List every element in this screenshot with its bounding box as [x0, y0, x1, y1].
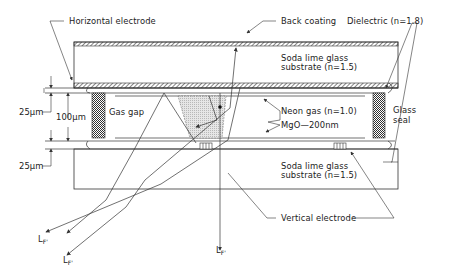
label-top-substrate-line2: substrate (n=1.5)	[281, 63, 357, 71]
glass-seal-right	[373, 93, 385, 138]
emission-point	[218, 105, 222, 109]
label-lf-center-left: LF'	[63, 256, 73, 264]
label-mgo: MgO—200nm	[281, 121, 339, 129]
dimension-100um: 100μm	[56, 113, 86, 121]
dielectric-layer	[74, 83, 398, 88]
back-coating-layer	[74, 42, 398, 46]
label-lf-center: LF'	[216, 246, 226, 254]
label-bottom-substrate-line2: substrate (n=1.5)	[281, 171, 357, 179]
bottom-glass-substrate	[74, 149, 398, 189]
label-dielectric: Dielectric (n=1.8)	[347, 17, 423, 25]
dimension-25um-bottom: 25μm	[19, 162, 44, 170]
label-gas-gap: Gas gap	[109, 108, 144, 116]
label-back-coating: Back coating	[281, 17, 336, 25]
label-glass-seal-line1: Glass	[393, 106, 416, 114]
label-horizontal-electrode: Horizontal electrode	[69, 17, 156, 25]
label-neon-gas: Neon gas (n=1.0)	[281, 107, 357, 115]
plasma-display-cell-diagram	[0, 0, 459, 277]
label-lf-left: LF'	[38, 235, 48, 243]
dimension-25um-top: 25μm	[19, 108, 44, 116]
label-vertical-electrode: Vertical electrode	[281, 214, 356, 222]
glass-seal-left	[92, 93, 105, 138]
label-glass-seal-line2: seal	[393, 116, 410, 124]
